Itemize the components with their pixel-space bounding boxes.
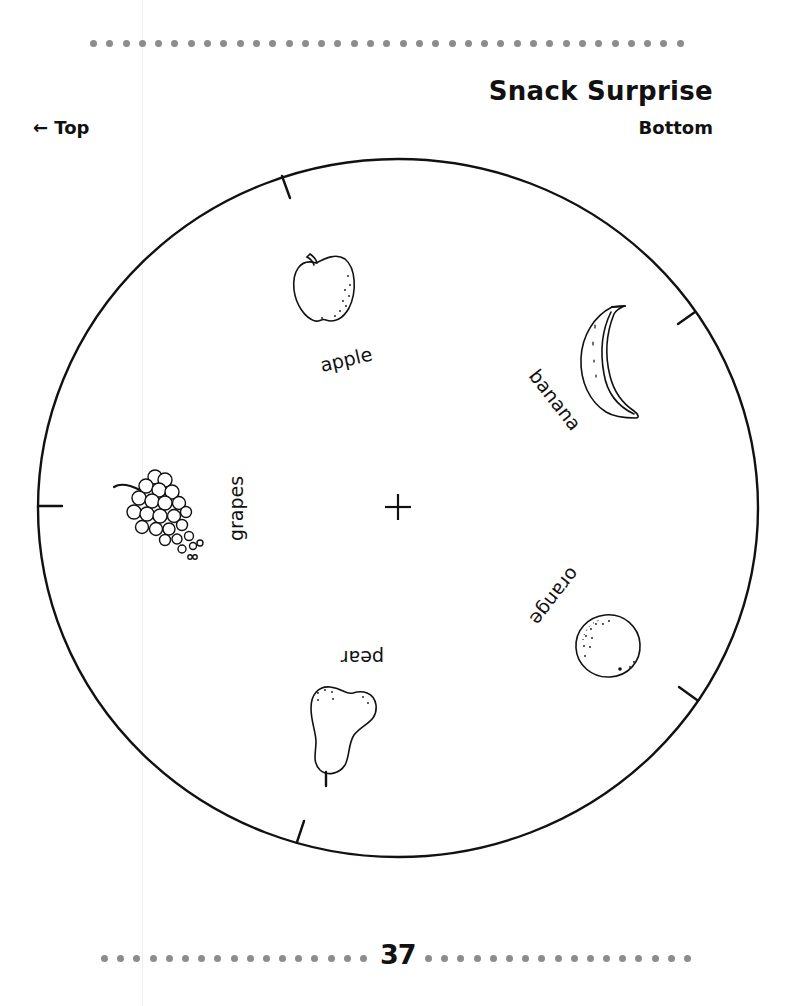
border-dot — [474, 955, 481, 962]
border-dot — [150, 955, 157, 962]
border-dot — [214, 955, 221, 962]
pear-label: pear — [341, 647, 384, 669]
border-dot — [587, 955, 594, 962]
apple-icon — [294, 254, 355, 321]
border-dot — [117, 955, 124, 962]
banana-label: banana — [525, 365, 586, 435]
apple-label: apple — [318, 343, 374, 376]
border-dot — [328, 955, 335, 962]
border-dot — [538, 955, 545, 962]
tick-upper-right — [678, 312, 695, 324]
border-dot — [425, 955, 432, 962]
tick-lower-right — [679, 687, 697, 700]
border-dot — [311, 955, 318, 962]
border-dot — [506, 955, 513, 962]
border-dot — [166, 955, 173, 962]
border-dot — [360, 955, 367, 962]
border-dot — [279, 955, 286, 962]
border-dot — [263, 955, 270, 962]
border-dot — [490, 955, 497, 962]
border-dot — [635, 955, 642, 962]
border-dot — [133, 955, 140, 962]
orange-icon — [576, 615, 640, 677]
border-dot — [344, 955, 351, 962]
orange-label: orange — [526, 564, 585, 630]
border-dot — [684, 955, 691, 962]
border-dot — [652, 955, 659, 962]
grapes-label: grapes — [225, 476, 247, 541]
footer-dotted-border-left — [101, 955, 367, 962]
border-dot — [198, 955, 205, 962]
tick-bottom — [297, 821, 304, 842]
border-dot — [441, 955, 448, 962]
grapes-icon — [114, 470, 203, 559]
border-dot — [555, 955, 562, 962]
border-dot — [457, 955, 464, 962]
footer-dotted-border-right — [425, 955, 691, 962]
border-dot — [668, 955, 675, 962]
banana-icon — [581, 306, 638, 418]
center-cross-icon — [385, 494, 411, 520]
pear-icon — [311, 687, 376, 786]
border-dot — [247, 955, 254, 962]
snack-wheel: apple banana grapes orange — [0, 0, 785, 1006]
border-dot — [603, 955, 610, 962]
border-dot — [101, 955, 108, 962]
border-dot — [295, 955, 302, 962]
tick-top — [282, 176, 290, 198]
border-dot — [619, 955, 626, 962]
page-number: 37 — [380, 939, 416, 970]
border-dot — [571, 955, 578, 962]
border-dot — [182, 955, 189, 962]
border-dot — [522, 955, 529, 962]
border-dot — [231, 955, 238, 962]
